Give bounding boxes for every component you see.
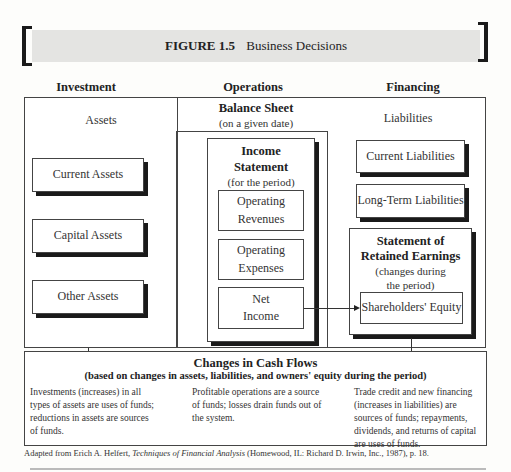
retained-earnings-subtitle-1: (changes during bbox=[349, 264, 472, 279]
financing-cash-flow-text: Trade credit and new financing (increase… bbox=[354, 386, 482, 452]
footnote-prefix: Adapted from Erich A. Helfert, bbox=[24, 448, 132, 458]
operating-expenses-box: Operating Expenses bbox=[218, 239, 304, 280]
retained-earnings-title-2: Retained Earnings bbox=[349, 248, 472, 264]
source-footnote: Adapted from Erich A. Helfert, Technique… bbox=[24, 448, 429, 458]
column-header-operations: Operations bbox=[188, 80, 318, 95]
operating-revenues-line1: Operating bbox=[237, 193, 285, 210]
left-bracket bbox=[22, 26, 32, 66]
income-statement-subtitle: (for the period) bbox=[207, 175, 315, 190]
liabilities-label: Liabilities bbox=[330, 111, 486, 126]
figure-number: FIGURE 1.5 bbox=[165, 38, 235, 53]
net-income-line2: Income bbox=[243, 308, 279, 325]
investment-cash-flow-text: Investments (increases) in all types of … bbox=[30, 386, 158, 438]
arrowhead-right-icon bbox=[354, 305, 360, 311]
cash-flows-subtitle: (based on changes in assets, liabilities… bbox=[24, 369, 487, 383]
long-term-liabilities-box: Long-Term Liabilities bbox=[356, 184, 465, 218]
balance-sheet-title: Balance Sheet bbox=[176, 100, 336, 116]
footnote-suffix: (Homewood, IL: Richard D. Irwin, Inc., 1… bbox=[245, 448, 429, 458]
balance-sheet-subtitle: (on a given date) bbox=[176, 116, 336, 131]
current-assets-box: Current Assets bbox=[32, 158, 144, 192]
net-income-line1: Net bbox=[252, 291, 269, 308]
column-header-investment: Investment bbox=[21, 80, 151, 95]
column-header-financing: Financing bbox=[348, 80, 478, 95]
operating-revenues-box: Operating Revenues bbox=[218, 190, 304, 231]
figure-title: FIGURE 1.5 Business Decisions bbox=[32, 38, 480, 54]
other-assets-box: Other Assets bbox=[32, 280, 144, 314]
net-income-arrow-line bbox=[304, 308, 356, 309]
income-statement-title-1: Income bbox=[207, 143, 315, 159]
operating-expenses-line1: Operating bbox=[237, 242, 285, 259]
operating-revenues-line2: Revenues bbox=[238, 211, 285, 228]
bottom-rule bbox=[30, 468, 486, 470]
footnote-book-title: Techniques of Financial Analysis bbox=[132, 448, 245, 458]
capital-assets-box: Capital Assets bbox=[32, 219, 144, 253]
assets-label: Assets bbox=[24, 113, 178, 128]
current-liabilities-box: Current Liabilities bbox=[356, 140, 465, 173]
figure-caption: Business Decisions bbox=[246, 38, 347, 53]
operations-cash-flow-text: Profitable operations are a source of fu… bbox=[192, 386, 324, 425]
net-income-box: Net Income bbox=[218, 287, 304, 329]
operating-expenses-line2: Expenses bbox=[238, 260, 283, 277]
retained-earnings-subtitle-2: the period) bbox=[349, 278, 472, 293]
income-statement-title-2: Statement bbox=[207, 159, 315, 175]
retained-earnings-title-1: Statement of bbox=[349, 233, 472, 249]
shareholders-equity-box: Shareholders' Equity bbox=[360, 292, 463, 324]
